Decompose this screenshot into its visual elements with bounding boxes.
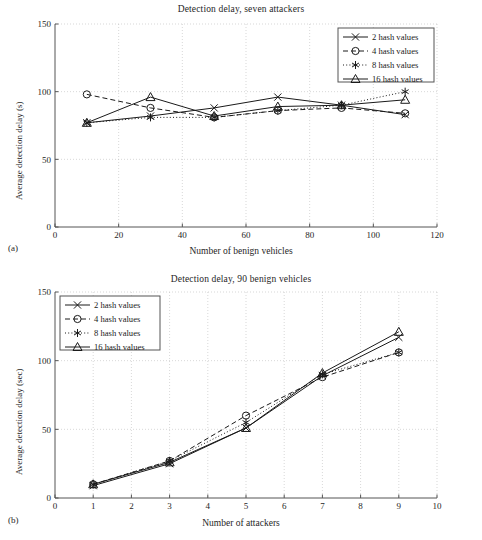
svg-text:1: 1 — [91, 501, 96, 511]
svg-text:40: 40 — [178, 230, 188, 240]
svg-text:4: 4 — [206, 501, 211, 511]
svg-text:2: 2 — [129, 501, 134, 511]
svg-text:8: 8 — [358, 501, 363, 511]
svg-text:80: 80 — [305, 230, 315, 240]
figure-container: Detection delay, seven attackers Average… — [0, 0, 482, 540]
svg-text:0: 0 — [53, 230, 58, 240]
svg-text:8 hash values: 8 hash values — [372, 60, 419, 70]
svg-text:0: 0 — [53, 501, 58, 511]
svg-text:0: 0 — [47, 493, 52, 503]
chart-panel-a: Detection delay, seven attackers Average… — [0, 0, 482, 270]
svg-text:3: 3 — [167, 501, 172, 511]
svg-text:10: 10 — [433, 501, 443, 511]
svg-text:100: 100 — [38, 87, 52, 97]
svg-text:0: 0 — [47, 222, 52, 232]
svg-text:100: 100 — [38, 356, 52, 366]
svg-text:150: 150 — [38, 19, 52, 29]
svg-text:20: 20 — [114, 230, 124, 240]
svg-text:9: 9 — [397, 501, 402, 511]
chart-panel-b: Detection delay, 90 benign vehicles Aver… — [0, 270, 482, 540]
svg-text:2 hash values: 2 hash values — [372, 32, 419, 42]
svg-text:6: 6 — [282, 501, 287, 511]
svg-text:16 hash values: 16 hash values — [372, 74, 423, 84]
svg-text:50: 50 — [42, 155, 52, 165]
svg-text:50: 50 — [42, 425, 52, 435]
plot-area-a: 0204060801001200501001502 hash values4 h… — [0, 0, 482, 270]
svg-text:150: 150 — [38, 287, 52, 297]
svg-text:5: 5 — [244, 501, 249, 511]
svg-text:100: 100 — [367, 230, 381, 240]
plot-area-b: 0123456789100501001502 hash values4 hash… — [0, 270, 482, 540]
svg-text:7: 7 — [320, 501, 325, 511]
svg-text:16 hash values: 16 hash values — [94, 342, 145, 352]
svg-text:60: 60 — [242, 230, 252, 240]
svg-text:120: 120 — [430, 230, 444, 240]
svg-text:4 hash values: 4 hash values — [372, 46, 419, 56]
svg-text:2 hash values: 2 hash values — [94, 300, 141, 310]
svg-text:4 hash values: 4 hash values — [94, 314, 141, 324]
svg-text:8 hash values: 8 hash values — [94, 328, 141, 338]
